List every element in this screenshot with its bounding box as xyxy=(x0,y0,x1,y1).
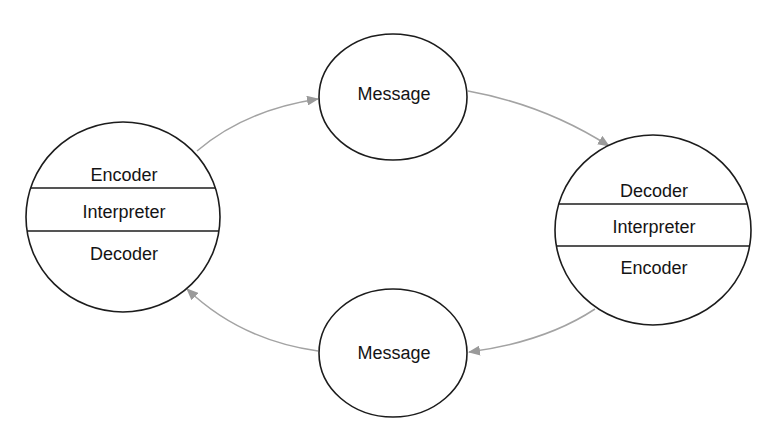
bottom-message-node: Message xyxy=(319,289,467,417)
left-layer-2-label: Interpreter xyxy=(82,202,165,222)
top-message-node: Message xyxy=(319,34,467,160)
right-layer-1-label: Decoder xyxy=(620,181,688,201)
right-party-node: Decoder Interpreter Encoder xyxy=(550,135,756,325)
arrow-top-message-to-right xyxy=(468,91,609,146)
diagram-svg: Encoder Interpreter Decoder Decoder Inte… xyxy=(0,0,776,441)
communication-diagram: Encoder Interpreter Decoder Decoder Inte… xyxy=(0,0,776,441)
arrow-right-to-bottom-message xyxy=(469,309,595,352)
right-layer-2-label: Interpreter xyxy=(612,217,695,237)
arrow-left-to-top-message xyxy=(197,99,318,151)
left-layer-3-label: Decoder xyxy=(90,244,158,264)
right-layer-3-label: Encoder xyxy=(620,258,687,278)
left-layer-1-label: Encoder xyxy=(90,165,157,185)
bottom-message-label: Message xyxy=(357,343,430,363)
top-message-label: Message xyxy=(357,84,430,104)
left-party-node: Encoder Interpreter Decoder xyxy=(20,122,226,312)
arrow-bottom-message-to-left xyxy=(187,289,318,351)
